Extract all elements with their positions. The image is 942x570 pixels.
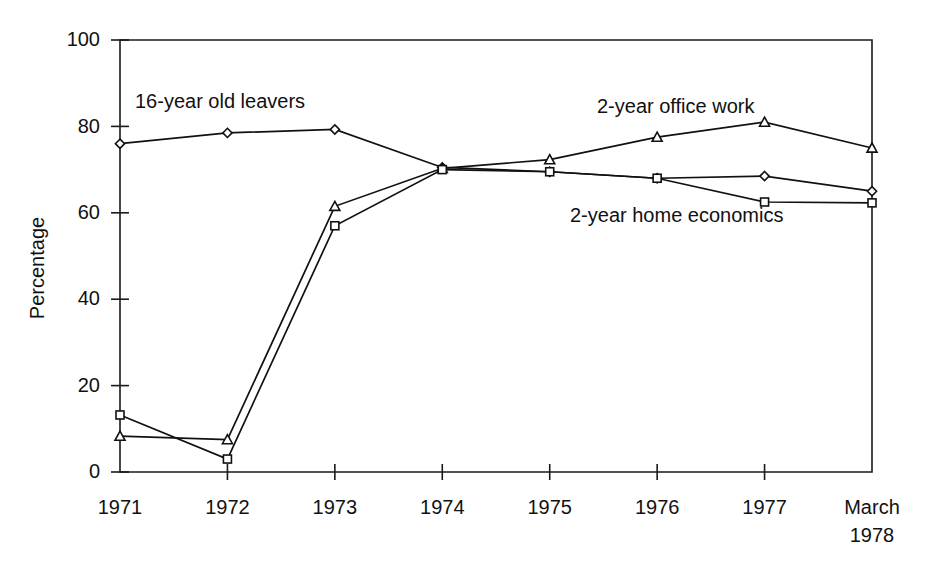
y-tick-label-20: 20 [78, 374, 100, 396]
x-tick-sublabel-March 1978: 1978 [850, 524, 895, 546]
y-axis-tick-labels: 020406080100 [67, 28, 100, 482]
marker-diamond-1971 [115, 139, 124, 148]
series-line-0 [120, 129, 872, 191]
marker-triangle-1977 [760, 117, 770, 126]
x-tick-label-March 1978: March [844, 496, 900, 518]
line-chart: 020406080100 197119721973197419751976197… [0, 0, 942, 570]
marker-square-1971 [116, 411, 124, 419]
y-axis-title: Percentage [26, 217, 48, 319]
marker-square-1974 [438, 166, 446, 174]
x-axis-tick-labels: 1971197219731974197519761977March1978 [98, 496, 900, 546]
y-tick-label-60: 60 [78, 201, 100, 223]
x-tick-label-1977: 1977 [742, 496, 787, 518]
x-tick-label-1974: 1974 [420, 496, 465, 518]
marker-square-March 1978 [868, 199, 876, 207]
marker-square-1973 [331, 222, 339, 230]
series-annotation-1: 2-year office work [597, 95, 755, 117]
marker-diamond-March 1978 [867, 187, 876, 196]
marker-square-1976 [653, 174, 661, 182]
series-annotations: 16-year old leavers2-year office work2-y… [135, 90, 783, 226]
y-tick-label-80: 80 [78, 115, 100, 137]
x-tick-label-1976: 1976 [635, 496, 680, 518]
y-tick-label-0: 0 [89, 460, 100, 482]
marker-square-1972 [223, 455, 231, 463]
data-series [120, 122, 872, 459]
chart-container: 020406080100 197119721973197419751976197… [0, 0, 942, 570]
series-annotation-0: 16-year old leavers [135, 90, 305, 112]
series-annotation-2: 2-year home economics [570, 204, 783, 226]
y-tick-label-100: 100 [67, 28, 100, 50]
x-tick-label-1972: 1972 [205, 496, 250, 518]
x-tick-label-1975: 1975 [527, 496, 572, 518]
marker-diamond-1973 [330, 125, 339, 134]
x-tick-label-1973: 1973 [313, 496, 358, 518]
marker-square-1975 [546, 168, 554, 176]
y-tick-label-40: 40 [78, 287, 100, 309]
x-tick-label-1971: 1971 [98, 496, 143, 518]
marker-diamond-1972 [223, 128, 232, 137]
marker-diamond-1977 [760, 171, 769, 180]
